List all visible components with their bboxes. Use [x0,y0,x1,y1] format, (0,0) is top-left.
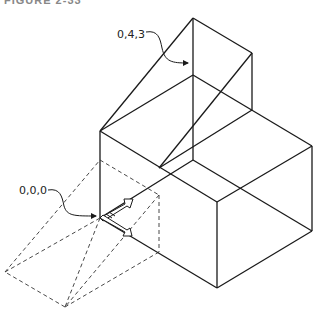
edge [100,218,217,288]
edge [100,75,193,131]
edge [193,160,312,231]
edge [100,131,217,202]
edge [100,18,193,131]
dashed-plane [5,160,159,307]
leader-0-0-0 [48,190,96,216]
isometric-drawing: 0,4,3 0,0,0 [0,0,323,318]
dashed-edge [65,218,100,307]
leader-0-4-3 [146,32,188,63]
ucs-icon [100,199,133,236]
solid-object [100,18,312,288]
edge [217,146,312,202]
edge [159,110,252,168]
edge [217,231,312,288]
label-point-0-4-3: 0,4,3 [117,28,145,41]
dashed-edge [65,252,159,307]
dashed-edge [5,272,65,307]
label-point-origin: 0,0,0 [19,184,47,197]
ucs-y-arrow [100,215,132,236]
dashed-edge [5,218,100,272]
edge [159,53,252,168]
dashed-edge [100,160,159,195]
edge [193,18,252,53]
